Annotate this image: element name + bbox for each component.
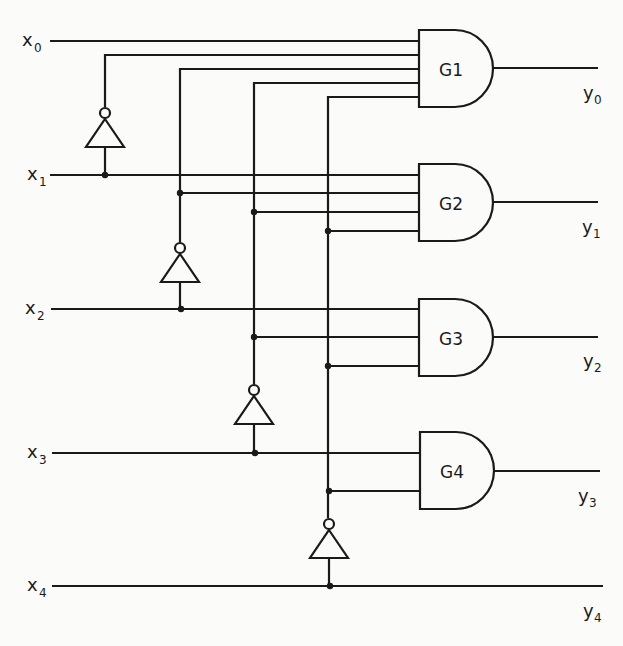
input-label-x3: x 3: [27, 441, 47, 467]
svg-text:G4: G4: [440, 462, 464, 482]
output-label-y0: y 0: [583, 82, 602, 107]
svg-text:x: x: [27, 574, 38, 595]
input-label-x1: x 1: [27, 163, 47, 189]
and-gate-g4: G4: [420, 432, 494, 509]
junction-dots: [102, 172, 333, 589]
output-label-y4: y 4: [583, 600, 602, 625]
wire-not-x2: [254, 83, 419, 384]
wire-not-x3: [328, 97, 419, 518]
svg-text:4: 4: [39, 586, 47, 600]
inverter-3-icon: [235, 385, 273, 424]
and-gate-g2: G2: [419, 164, 493, 241]
svg-text:0: 0: [34, 41, 42, 55]
svg-text:x: x: [25, 297, 36, 318]
inverter-2-icon: [161, 243, 199, 282]
svg-text:y: y: [582, 216, 593, 237]
svg-text:y: y: [583, 350, 594, 371]
input-label-x0: x 0: [22, 29, 42, 55]
input-label-x2: x 2: [25, 297, 45, 323]
svg-text:x: x: [22, 29, 33, 50]
output-label-y3: y 3: [578, 485, 597, 510]
and-gate-g3: G3: [419, 299, 493, 376]
output-label-y2: y 2: [583, 350, 602, 375]
and-gate-g1: G1: [419, 30, 493, 107]
svg-text:1: 1: [39, 175, 47, 189]
svg-text:G2: G2: [439, 194, 463, 214]
svg-text:1: 1: [593, 227, 601, 241]
svg-text:2: 2: [37, 309, 45, 323]
svg-text:x: x: [27, 441, 38, 462]
inverter-4-icon: [310, 519, 348, 558]
svg-text:4: 4: [594, 611, 602, 625]
svg-text:2: 2: [594, 361, 602, 375]
logic-circuit-diagram: x 0 x 1 x 2 x 3 x 4: [0, 0, 623, 646]
wire-not-x0: [105, 55, 419, 107]
svg-text:3: 3: [589, 496, 597, 510]
svg-text:y: y: [583, 82, 594, 103]
svg-text:G3: G3: [439, 329, 463, 349]
svg-text:3: 3: [39, 453, 47, 467]
inverter-1-icon: [86, 108, 124, 147]
svg-text:y: y: [583, 600, 594, 621]
svg-text:0: 0: [594, 93, 602, 107]
svg-text:x: x: [27, 163, 38, 184]
svg-text:G1: G1: [439, 60, 463, 80]
output-label-y1: y 1: [582, 216, 601, 241]
svg-text:y: y: [578, 485, 589, 506]
input-label-x4: x 4: [27, 574, 47, 600]
wire-not-x1: [180, 69, 419, 242]
